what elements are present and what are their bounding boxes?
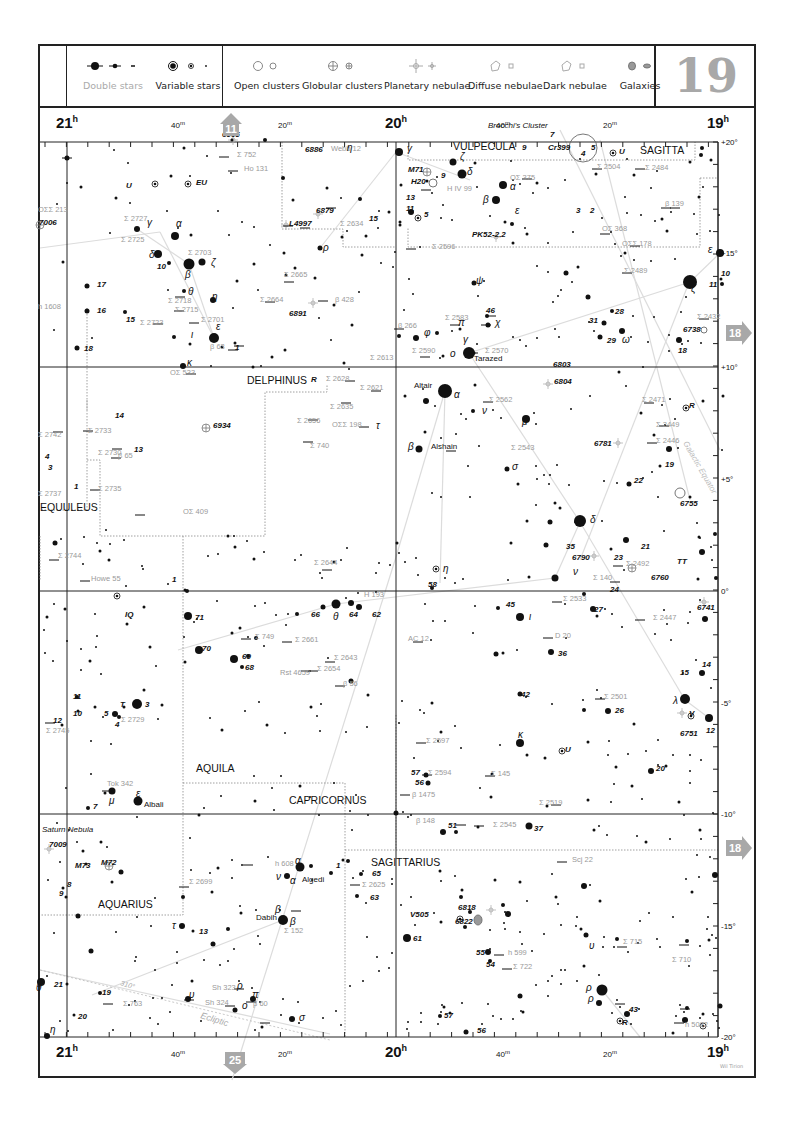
double-star-label: OΣ 533 xyxy=(170,368,195,377)
star xyxy=(419,709,421,711)
star xyxy=(53,329,55,331)
star xyxy=(638,1008,640,1010)
double-star-label: Σ 2729 xyxy=(121,715,144,724)
star xyxy=(440,1011,442,1013)
star xyxy=(349,810,351,812)
star-chart[interactable]: 21h21h40m40m20m20m20h20h40m40m20m20m19h1… xyxy=(0,0,792,1134)
star-label: ι xyxy=(191,329,194,340)
star-label: γ xyxy=(407,143,413,154)
star xyxy=(584,933,589,938)
star xyxy=(150,925,152,927)
star xyxy=(420,1021,422,1023)
star xyxy=(593,829,596,832)
star-label: 19 xyxy=(665,460,674,469)
star xyxy=(66,983,69,986)
star-label: 15 xyxy=(369,214,378,223)
star xyxy=(340,559,342,561)
star-label: 12 xyxy=(53,716,62,725)
double-star-label: β 139 xyxy=(665,199,684,208)
star xyxy=(413,757,415,759)
constellation-name: DELPHINUS xyxy=(247,374,307,386)
star xyxy=(543,474,545,476)
star xyxy=(154,250,162,258)
star xyxy=(431,192,433,194)
catalog-object-label: L4997 xyxy=(289,219,312,228)
star-label: 9 xyxy=(522,143,527,152)
double-star-label: β 60 xyxy=(253,999,268,1008)
star xyxy=(696,233,698,235)
star xyxy=(689,161,692,164)
nav-arrow-down-25[interactable]: 25 xyxy=(223,1052,247,1074)
star-label: ρ xyxy=(322,242,329,253)
star xyxy=(358,291,360,293)
catalog-object-label: 6822 xyxy=(455,917,473,926)
ra-label-top: 20m xyxy=(603,120,617,130)
star xyxy=(226,927,230,931)
double-star-label: Σ 152 xyxy=(284,926,303,935)
star-label: α xyxy=(290,875,296,886)
star-label: 10 xyxy=(157,262,166,271)
constellation-name: VULPECULA xyxy=(453,140,515,152)
star xyxy=(699,153,703,157)
constellation-name: AQUILA xyxy=(196,762,235,774)
star xyxy=(672,1032,675,1035)
star xyxy=(689,782,691,784)
nav-arrow-label[interactable]: 18 xyxy=(729,327,741,339)
star xyxy=(557,903,559,905)
ra-label-bottom: 20h xyxy=(385,1043,407,1060)
ra-label-bottom: 20m xyxy=(278,1049,292,1059)
star xyxy=(257,935,259,937)
guide-line xyxy=(137,229,189,264)
star-label: 70 xyxy=(202,644,211,653)
star-label: R xyxy=(689,401,695,410)
star xyxy=(129,202,131,204)
star xyxy=(172,335,176,339)
star xyxy=(407,1021,409,1023)
star xyxy=(603,480,605,482)
star xyxy=(502,652,505,655)
star xyxy=(548,520,553,525)
ra-label-bottom: 40m xyxy=(496,1049,510,1059)
nav-arrow-right-18[interactable]: 18 xyxy=(726,836,752,860)
star xyxy=(389,564,391,566)
star xyxy=(519,339,521,341)
star-label: 4 xyxy=(44,452,50,461)
double-star-label: Rst 4659 xyxy=(280,668,310,677)
double-star-label: β 56 xyxy=(343,679,358,688)
star xyxy=(233,535,235,537)
star xyxy=(394,811,399,816)
star xyxy=(435,331,439,335)
star xyxy=(316,715,318,717)
nav-arrow-up-11[interactable]: 11 xyxy=(220,113,242,136)
nav-arrow-label[interactable]: 18 xyxy=(729,842,741,854)
star-label: η xyxy=(50,1024,56,1035)
star xyxy=(94,613,96,615)
star xyxy=(533,412,535,414)
double-star-label: Σ 752 xyxy=(237,150,256,159)
star-label: 55 xyxy=(476,948,485,957)
double-star-label: Sh 324 xyxy=(205,998,229,1007)
star xyxy=(494,879,497,882)
star xyxy=(526,520,529,523)
star xyxy=(555,896,558,899)
star xyxy=(253,558,256,561)
star xyxy=(710,546,712,548)
star xyxy=(627,482,632,487)
variable-star-core xyxy=(417,217,420,220)
planetary-nebula-cross xyxy=(543,379,553,389)
star xyxy=(357,592,359,594)
star xyxy=(702,1013,705,1016)
star xyxy=(149,1017,151,1019)
star xyxy=(702,616,708,622)
star xyxy=(299,785,302,788)
star xyxy=(438,384,452,398)
nav-arrow-right-18[interactable]: 18 xyxy=(726,321,752,345)
star xyxy=(510,222,514,226)
star xyxy=(454,725,456,727)
star xyxy=(500,417,502,419)
star-label: α xyxy=(176,218,182,229)
star xyxy=(99,550,102,553)
nav-arrow-label[interactable]: 11 xyxy=(225,123,237,135)
star xyxy=(115,931,117,933)
nav-arrow-label[interactable]: 25 xyxy=(229,1054,241,1066)
